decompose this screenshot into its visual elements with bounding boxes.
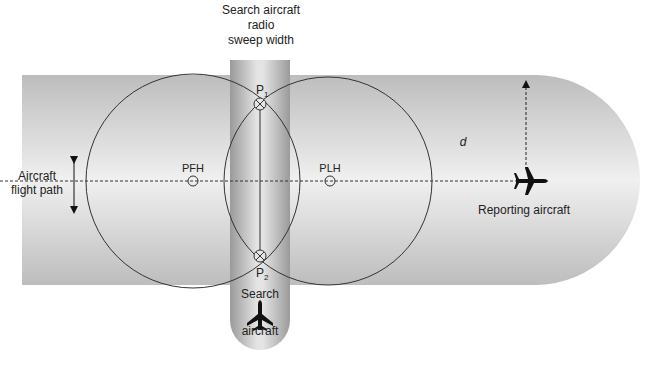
p2-marker: [254, 250, 266, 262]
search-pattern-diagram: Search aircraft radio sweep width Aircra…: [0, 0, 647, 365]
flight-path-label-line1: Aircraft: [18, 169, 57, 183]
distance-label: d: [460, 135, 467, 149]
search-aircraft-label-line1: Search: [241, 287, 279, 301]
sweep-width-label-line1: Search aircraft: [222, 3, 301, 17]
search-aircraft-label-line2: aircraft: [242, 324, 279, 338]
reporting-aircraft-label: Reporting aircraft: [478, 203, 571, 217]
p1-marker: [254, 98, 266, 110]
pfh-label: PFH: [182, 162, 204, 174]
sweep-width-label-line3: sweep width: [228, 33, 294, 47]
sweep-width-label-line2: radio: [248, 18, 275, 32]
flight-path-label-line2: flight path: [11, 183, 63, 197]
plh-label: PLH: [319, 162, 340, 174]
